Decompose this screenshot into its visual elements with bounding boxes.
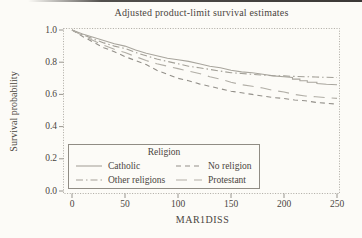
y-tick-label: 0.0 [31,186,57,197]
legend-grid: Catholic No religion Other religions Pro… [69,158,259,187]
legend-item-catholic: Catholic [75,159,175,173]
series-line-other-religions [72,30,337,78]
legend-item-no-religion: No religion [175,159,259,173]
scanned-figure-page: Adjusted product-limit survival estimate… [0,0,362,238]
legend-label: Other religions [108,175,165,185]
y-tick-label: 0.4 [31,121,57,132]
y-tick-label: 1.0 [31,25,57,36]
legend-title: Religion [69,147,259,158]
protestant-line-sample-icon [175,175,203,185]
y-tick-label: 0.2 [31,153,57,164]
other-religions-line-sample-icon [75,175,103,185]
y-tick-label: 0.8 [31,57,57,68]
no-religion-line-sample-icon [175,161,203,171]
x-tick-label: 200 [272,199,296,210]
legend-item-protestant: Protestant [175,173,259,187]
x-tick-label: 50 [113,199,137,210]
x-tick-label: 250 [325,199,349,210]
series-line-protestant [72,30,337,98]
legend-label: No religion [208,161,252,171]
series-line-no-religion [72,30,337,104]
legend-box: Religion Catholic No religion Other reli… [68,144,260,189]
legend-item-other-religions: Other religions [75,173,175,187]
legend-label: Catholic [108,161,140,171]
x-tick-label: 0 [60,199,84,210]
x-tick-label: 100 [166,199,190,210]
legend-label: Protestant [208,175,246,185]
series-line-catholic [72,30,337,85]
catholic-line-sample-icon [75,161,103,171]
y-tick-label: 0.6 [31,89,57,100]
x-tick-label: 150 [219,199,243,210]
